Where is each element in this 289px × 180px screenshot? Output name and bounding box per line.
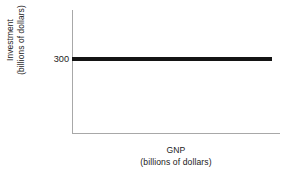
y-axis-title-line-1: Investment <box>5 0 16 98</box>
x-axis-line <box>72 133 280 134</box>
investment-series-line <box>72 57 272 61</box>
x-axis-title: GNP (billions of dollars) <box>72 144 280 168</box>
y-axis-tick-label-300: 300 <box>40 54 69 65</box>
y-axis-title-line-2: (billions of dollars) <box>16 0 27 98</box>
x-axis-title-line-2: (billions of dollars) <box>72 156 280 168</box>
investment-gnp-chart: Investment (billions of dollars) 300 GNP… <box>0 0 289 180</box>
y-axis-title: Investment (billions of dollars) <box>5 0 35 98</box>
y-axis-line <box>72 10 73 134</box>
x-axis-title-line-1: GNP <box>72 144 280 156</box>
